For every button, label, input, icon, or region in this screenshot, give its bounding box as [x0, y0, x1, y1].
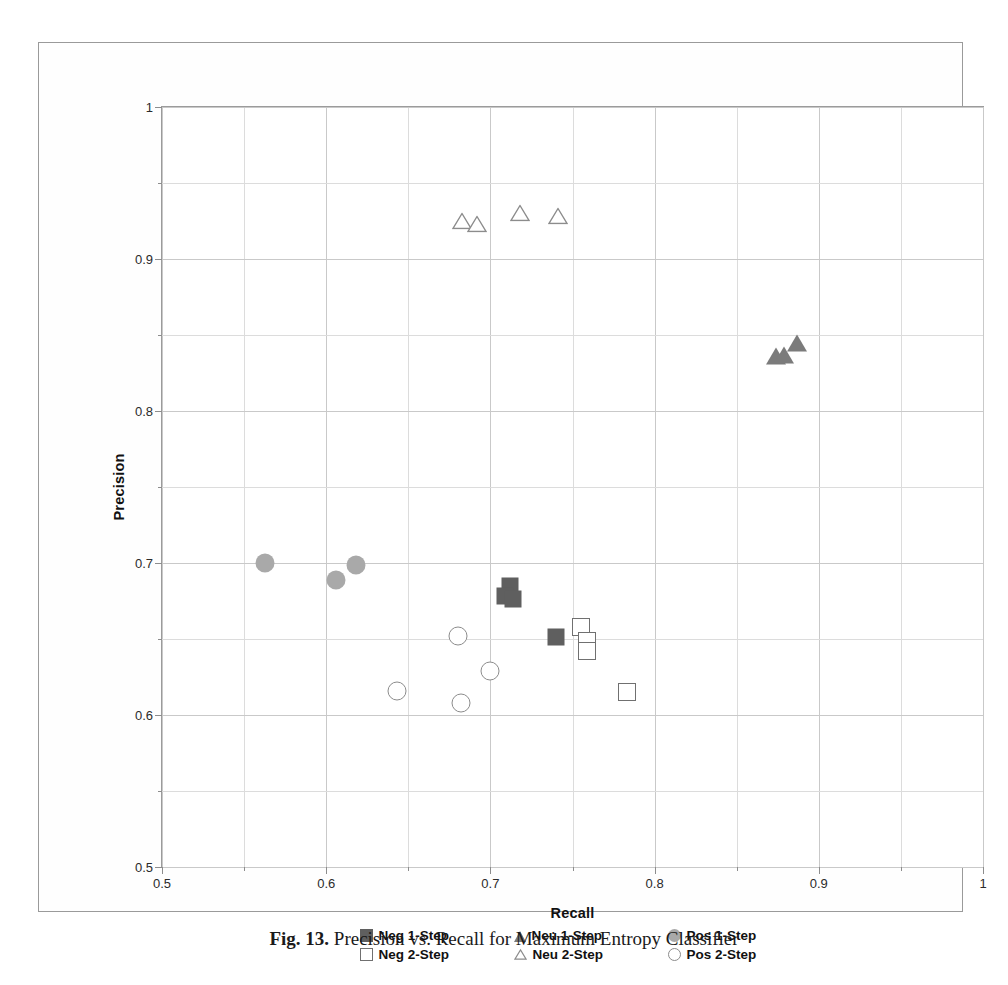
- data-point-neu-1-step: [787, 334, 807, 351]
- y-tickmark: [155, 867, 162, 868]
- y-tickmark: [155, 563, 162, 564]
- y-tick-label: 1: [146, 100, 153, 115]
- data-point-pos-2-step: [451, 693, 470, 712]
- gridlines: [162, 107, 983, 867]
- gridline-horizontal: [162, 487, 983, 488]
- x-tick-label: 0.7: [481, 876, 499, 891]
- x-tick-label: 0.9: [810, 876, 828, 891]
- x-tick-label: 0.5: [153, 876, 171, 891]
- figure-caption: Fig. 13. Precision vs. Recall for Maximu…: [0, 928, 1008, 950]
- gridline-horizontal: [162, 563, 983, 564]
- x-tickmark: [326, 867, 327, 874]
- scatter-plot-area: 0.50.60.70.80.91 0.50.60.70.80.91: [161, 106, 984, 868]
- data-point-neu-2-step: [467, 216, 487, 233]
- y-tickmark: [158, 487, 162, 488]
- x-tickmark: [573, 867, 574, 871]
- x-tickmark: [244, 867, 245, 871]
- caption-label: Fig. 13.: [269, 928, 329, 949]
- y-tick-label: 0.8: [135, 404, 153, 419]
- gridline-vertical: [901, 107, 902, 867]
- gridline-horizontal: [162, 639, 983, 640]
- gridline-vertical: [490, 107, 491, 867]
- data-point-neu-2-step: [510, 205, 530, 222]
- data-point-neg-2-step: [618, 683, 636, 701]
- gridline-vertical: [737, 107, 738, 867]
- y-tickmark: [155, 107, 162, 108]
- y-tickmark: [158, 183, 162, 184]
- gridline-vertical: [162, 107, 163, 867]
- x-tickmark: [408, 867, 409, 871]
- x-axis-label: Recall: [161, 905, 984, 921]
- y-tick-label: 0.6: [135, 708, 153, 723]
- caption-text: Precision vs. Recall for Maximum Entropy…: [334, 928, 739, 949]
- data-point-pos-1-step: [256, 554, 275, 573]
- x-tickmark: [983, 867, 984, 874]
- gridline-horizontal: [162, 183, 983, 184]
- gridline-vertical: [244, 107, 245, 867]
- y-tickmark: [158, 335, 162, 336]
- gridline-horizontal: [162, 411, 983, 412]
- y-tickmark: [158, 639, 162, 640]
- data-point-neg-1-step: [548, 629, 565, 646]
- gridline-vertical: [573, 107, 574, 867]
- data-point-neg-1-step: [505, 591, 522, 608]
- x-tickmark: [819, 867, 820, 874]
- gridline-vertical: [326, 107, 327, 867]
- y-tickmark: [155, 411, 162, 412]
- data-point-pos-2-step: [481, 661, 500, 680]
- gridline-vertical: [408, 107, 409, 867]
- gridline-horizontal: [162, 335, 983, 336]
- x-tickmark: [655, 867, 656, 874]
- x-tickmark: [162, 867, 163, 874]
- x-tick-label: 1: [979, 876, 986, 891]
- data-point-pos-1-step: [346, 555, 365, 574]
- gridline-horizontal: [162, 791, 983, 792]
- gridline-vertical: [655, 107, 656, 867]
- x-tick-label: 0.6: [317, 876, 335, 891]
- gridline-horizontal: [162, 715, 983, 716]
- x-tickmark: [737, 867, 738, 871]
- x-tick-label: 0.8: [646, 876, 664, 891]
- y-tick-label: 0.5: [135, 860, 153, 875]
- data-point-neg-2-step: [578, 642, 596, 660]
- data-point-pos-1-step: [327, 570, 346, 589]
- figure-frame: Precision 0.50.60.70.80.91 0.50.60.70.80…: [38, 42, 963, 912]
- y-axis-label: Precision: [85, 106, 152, 868]
- data-point-pos-2-step: [387, 681, 406, 700]
- x-tickmark: [901, 867, 902, 871]
- y-tickmark: [158, 791, 162, 792]
- gridline-horizontal: [162, 259, 983, 260]
- x-tickmark: [490, 867, 491, 874]
- gridline-horizontal: [162, 107, 983, 108]
- data-point-neu-2-step: [548, 208, 568, 225]
- data-point-pos-2-step: [448, 626, 467, 645]
- y-tickmark: [155, 715, 162, 716]
- gridline-vertical: [819, 107, 820, 867]
- y-tickmark: [155, 259, 162, 260]
- gridline-vertical: [983, 107, 984, 867]
- y-tick-label: 0.7: [135, 556, 153, 571]
- y-tick-label: 0.9: [135, 252, 153, 267]
